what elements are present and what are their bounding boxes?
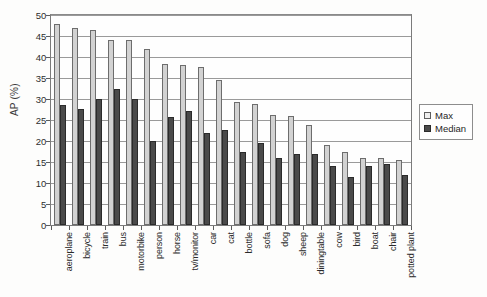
bar-max	[396, 160, 402, 225]
bar-max	[162, 64, 168, 225]
bar-group	[87, 15, 105, 225]
x-tick-mark	[357, 226, 358, 230]
bar-group	[267, 15, 285, 225]
x-tick-label: diningtable	[316, 232, 326, 274]
bar-max	[108, 40, 114, 225]
x-tick-label: cat	[226, 232, 236, 244]
bar-group	[375, 15, 393, 225]
bar-median	[294, 154, 300, 225]
bar-group	[195, 15, 213, 225]
bar-median	[240, 152, 246, 226]
bar-max	[90, 30, 96, 225]
x-tick-mark	[267, 226, 268, 230]
bar-max	[72, 28, 78, 225]
x-tick-mark	[87, 226, 88, 230]
x-tick-mark	[393, 226, 394, 230]
x-tick-label: horse	[172, 232, 182, 254]
x-tick-mark	[231, 226, 232, 230]
bar-max	[216, 80, 222, 225]
x-tick-mark	[51, 226, 52, 230]
bar-group	[141, 15, 159, 225]
bar-max	[234, 102, 240, 225]
bar-median	[132, 99, 138, 225]
bar-median	[222, 130, 228, 225]
bar-max	[360, 158, 366, 225]
x-tick-mark	[321, 226, 322, 230]
bar-median	[384, 164, 390, 225]
x-tick-mark	[69, 226, 70, 230]
bar-median	[78, 109, 84, 225]
bar-max	[252, 104, 258, 225]
bar-group	[321, 15, 339, 225]
bar-median	[60, 105, 66, 225]
bar-max	[288, 116, 294, 225]
bar-max	[144, 49, 150, 225]
bar-median	[276, 158, 282, 225]
x-tick-mark	[177, 226, 178, 230]
x-tick-mark	[375, 226, 376, 230]
x-tick-mark	[141, 226, 142, 230]
x-tick-label: bus	[118, 232, 128, 246]
bar-max	[378, 158, 384, 225]
bar-group	[303, 15, 321, 225]
bar-group	[213, 15, 231, 225]
bar-group	[105, 15, 123, 225]
x-tick-mark	[123, 226, 124, 230]
bar-group	[69, 15, 87, 225]
x-tick-mark	[213, 226, 214, 230]
bar-max	[180, 65, 186, 225]
bar-max	[198, 67, 204, 225]
legend-swatch-max-icon	[424, 112, 431, 119]
bar-median	[186, 111, 192, 225]
bar-median	[312, 154, 318, 225]
legend-item: Max	[424, 109, 466, 122]
x-tick-label: cow	[334, 232, 344, 248]
x-tick-label: potted plant	[406, 232, 416, 278]
bar-median	[366, 166, 372, 225]
legend-label: Median	[435, 124, 466, 134]
bar-max	[306, 125, 312, 225]
x-tick-label: sofa	[262, 232, 272, 249]
x-tick-mark	[159, 226, 160, 230]
bar-group	[159, 15, 177, 225]
bar-group	[285, 15, 303, 225]
bar-median	[258, 143, 264, 225]
x-tick-label: chair	[388, 232, 398, 251]
x-tick-mark	[105, 226, 106, 230]
bar-group	[249, 15, 267, 225]
x-tick-label: bicycle	[82, 232, 92, 259]
bar-max	[342, 152, 348, 225]
x-tick-label: bird	[352, 232, 362, 247]
x-tick-label: aeroplane	[64, 232, 74, 271]
bar-group	[51, 15, 69, 225]
bar-chart: AP (%) 50454035302520151050 aeroplanebic…	[0, 0, 487, 297]
bar-group	[357, 15, 375, 225]
x-tick-label: sheep	[298, 232, 308, 256]
bar-group	[231, 15, 249, 225]
x-tick-label: person	[154, 232, 164, 259]
x-tick-mark	[303, 226, 304, 230]
x-tick-mark	[411, 226, 412, 230]
bar-median	[348, 177, 354, 225]
legend-label: Max	[435, 111, 453, 121]
legend-swatch-median-icon	[424, 125, 431, 132]
x-axis: aeroplanebicycletrainbusmotorbikepersonh…	[51, 226, 411, 296]
x-tick-label: boat	[370, 232, 380, 249]
bar-median	[150, 141, 156, 225]
chart-legend: MaxMedian	[419, 104, 473, 140]
bar-median	[96, 99, 102, 225]
x-tick-mark	[339, 226, 340, 230]
x-tick-label: motorbike	[136, 232, 146, 271]
x-tick-mark	[249, 226, 250, 230]
bar-max	[270, 115, 276, 225]
bar-median	[204, 133, 210, 225]
x-tick-label: train	[100, 232, 110, 249]
bar-median	[330, 166, 336, 225]
bar-max	[126, 40, 132, 225]
x-tick-label: bottle	[244, 232, 254, 253]
bar-max	[324, 145, 330, 225]
bar-group	[339, 15, 357, 225]
bar-group	[393, 15, 411, 225]
bar-median	[114, 89, 120, 225]
bar-max	[54, 24, 60, 225]
